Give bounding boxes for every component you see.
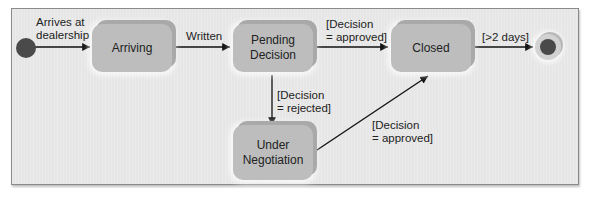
- state-under-negotiation: Under Negotiation: [233, 125, 313, 180]
- state-arriving: Arriving: [92, 24, 172, 72]
- state-under-negotiation-label: Under Negotiation: [243, 138, 304, 168]
- state-pending-decision-label: Pending Decision: [250, 33, 296, 63]
- state-closed-label: Closed: [412, 41, 449, 56]
- initial-state-node: [16, 38, 36, 58]
- final-state-inner: [540, 39, 556, 55]
- transition-label-arrives: Arrives at dealership: [36, 16, 89, 42]
- transition-label-rejected: [Decision = rejected]: [277, 89, 331, 115]
- transition-label-days: [>2 days]: [482, 31, 529, 44]
- state-pending-decision: Pending Decision: [233, 24, 313, 72]
- transition-label-negotiation-approved: [Decision = approved]: [372, 119, 433, 145]
- final-state-node: [535, 34, 561, 60]
- state-closed: Closed: [391, 24, 471, 72]
- state-arriving-label: Arriving: [112, 41, 153, 56]
- transition-label-pending-approved: [Decision = approved]: [326, 18, 387, 44]
- transition-label-written: Written: [186, 30, 222, 43]
